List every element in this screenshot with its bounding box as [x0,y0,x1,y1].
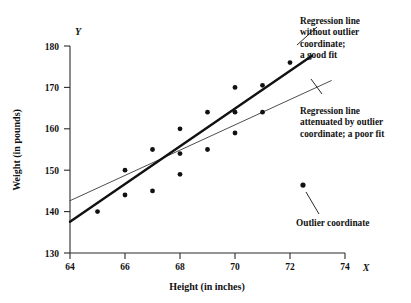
annotation-good-fit: Regression line without outlier coordina… [300,16,408,62]
y-tick-label-180: 180 [45,42,60,52]
leader-line-outlier [306,192,319,214]
y-tick-label-140: 140 [45,207,60,217]
x-tick-label-74: 74 [340,262,350,272]
leader-line-poor-fit [311,79,322,94]
x-tick-label-64: 64 [65,262,75,272]
annotation-poor-fit: Regression line attenuated by outlier co… [300,106,410,140]
data-point [123,193,128,198]
x-axis-title: Height (in inches) [169,281,245,293]
data-point [178,151,183,156]
data-point [178,126,183,131]
x-tick-label-72: 72 [285,262,295,272]
x-axis-symbol: X [362,262,370,273]
x-tick-label-68: 68 [175,262,185,272]
regression-line-poor-fit [70,81,331,201]
data-point [178,172,183,177]
x-tick-label-70: 70 [230,262,240,272]
data-point [150,189,155,194]
data-point [205,110,210,115]
data-point [205,147,210,152]
data-point [95,209,100,214]
y-tick-label-150: 150 [45,166,60,176]
data-point [233,85,238,90]
data-point [150,147,155,152]
data-point [260,83,265,88]
annotation-outlier: Outlier coordinate [296,218,408,229]
y-tick-label-130: 130 [45,249,60,259]
data-point [260,110,265,115]
x-tick-label-66: 66 [120,262,130,272]
data-point [288,60,293,65]
regression-scatter-figure: 180 170 160 150 140 130 64 66 68 70 72 7… [0,0,411,303]
y-tick-label-160: 160 [45,124,60,134]
data-point [233,131,238,136]
y-axis-title: Weight (in pounds) [11,109,23,191]
y-axis-symbol: Y [75,26,82,37]
regression-line-good-fit [70,56,312,222]
outlier-data-point [300,183,305,188]
y-tick-label-170: 170 [45,83,60,93]
data-point [123,168,128,173]
data-point [233,110,238,115]
